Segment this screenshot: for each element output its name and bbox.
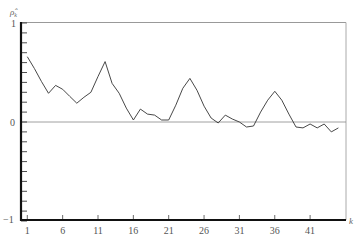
x-tick-label: 36: [270, 225, 280, 236]
x-tick-label: 6: [60, 225, 65, 236]
x-axis-title: k: [349, 216, 354, 226]
x-axis-tick-labels: 1611162126313641: [25, 225, 315, 236]
y-axis-title: ρ̂k: [9, 7, 18, 18]
x-tick-label: 16: [128, 225, 138, 236]
x-tick-label: 21: [164, 225, 174, 236]
autocorrelation-chart: ρ̂k 1 0 −1 k 1611162126313641: [0, 0, 361, 243]
y-tick-label-top: 1: [11, 18, 16, 29]
y-tick-label-zero: 0: [10, 117, 15, 128]
x-tick-label: 1: [25, 225, 30, 236]
x-tick-label: 11: [93, 225, 103, 236]
acf-series-line: [27, 57, 338, 132]
y-tick-label-bottom: −1: [3, 214, 14, 225]
x-tick-label: 26: [199, 225, 209, 236]
x-tick-label: 41: [305, 225, 315, 236]
x-tick-label: 31: [234, 225, 244, 236]
